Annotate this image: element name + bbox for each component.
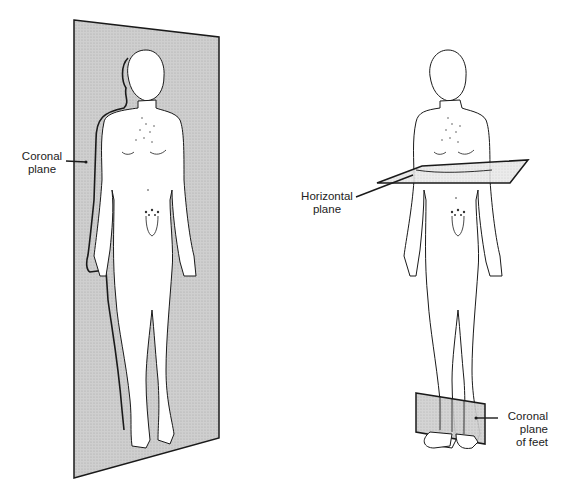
horizontal-plane-label-line1: Horizontal: [296, 190, 358, 203]
coronal-plane-label: Coronal plane: [18, 150, 66, 176]
coronal-plane-label-line1: Coronal: [18, 150, 66, 163]
horizontal-plane-label: Horizontal plane: [296, 190, 358, 216]
coronal-feet-label-line3: of feet: [498, 436, 548, 449]
right-figure: [356, 50, 528, 448]
anatomical-planes-diagram: [0, 0, 563, 488]
horizontal-plane-pointer: [356, 175, 413, 197]
coronal-plane-of-feet-label: Coronal plane of feet: [498, 410, 548, 449]
coronal-feet-label-line2: plane: [498, 423, 548, 436]
left-figure: [66, 20, 219, 478]
horizontal-plane-label-line2: plane: [296, 203, 358, 216]
coronal-plane-label-line2: plane: [18, 163, 66, 176]
coronal-feet-label-line1: Coronal: [498, 410, 548, 423]
